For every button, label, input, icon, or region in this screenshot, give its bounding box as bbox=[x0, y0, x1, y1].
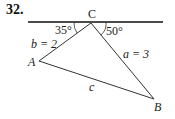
vertex-a-label: A bbox=[27, 55, 36, 69]
side-c bbox=[39, 61, 154, 99]
triangle-diagram: C A B 35° 50° b = 2 a = 3 c bbox=[0, 0, 175, 119]
side-b-label: b = 2 bbox=[31, 37, 57, 51]
angle-50-label: 50° bbox=[106, 24, 123, 38]
vertex-c-label: C bbox=[88, 7, 96, 21]
angle-35-label: 35° bbox=[55, 23, 72, 37]
side-a-label: a = 3 bbox=[123, 47, 149, 61]
side-c-label: c bbox=[89, 80, 95, 94]
vertex-b-label: B bbox=[154, 100, 162, 114]
angle-arc-35 bbox=[74, 22, 77, 33]
